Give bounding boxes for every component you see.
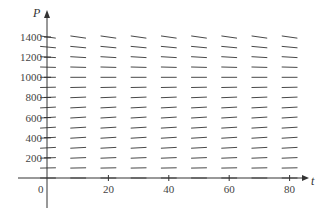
slope-segment: [192, 36, 207, 38]
y-axis-arrow-icon: [44, 10, 50, 18]
slope-segment: [131, 57, 146, 58]
slope-segment: [131, 158, 146, 159]
slope-segment: [41, 147, 56, 148]
slope-segment: [101, 57, 116, 58]
slope-segments: [41, 36, 298, 178]
y-tick-label: 800: [26, 91, 43, 103]
slope-segment: [192, 107, 207, 108]
slope-segment: [222, 137, 237, 138]
slope-segment: [71, 46, 86, 47]
origin-label: 0: [38, 183, 44, 195]
y-tick-label: 1400: [20, 31, 43, 43]
slope-segment: [71, 127, 86, 128]
slope-segment: [161, 147, 176, 148]
slope-segment: [71, 117, 86, 118]
slope-segment: [131, 46, 146, 47]
slope-segment: [282, 158, 297, 159]
x-axis-arrow-icon: [302, 175, 309, 181]
slope-segment: [101, 127, 116, 128]
slope-segment: [192, 97, 207, 98]
x-axis-label: t: [311, 174, 315, 188]
slope-segment: [71, 36, 86, 38]
slope-segment: [252, 158, 267, 159]
y-tick-label: 1200: [20, 51, 43, 63]
slope-segment: [222, 117, 237, 118]
slope-segment: [222, 127, 237, 128]
x-tick-label: 40: [163, 183, 175, 195]
slope-segment: [41, 46, 56, 47]
x-tick-label: 20: [103, 183, 115, 195]
slope-segment: [161, 137, 176, 138]
y-tick-label: 200: [26, 152, 43, 164]
slope-segment: [41, 127, 56, 128]
slope-segment: [131, 107, 146, 108]
slope-segment: [161, 97, 176, 98]
slope-segment: [192, 127, 207, 128]
slope-segment: [252, 137, 267, 138]
slope-segment: [131, 127, 146, 128]
slope-segment: [192, 117, 207, 118]
slope-segment: [101, 158, 116, 159]
slope-segment: [101, 36, 116, 38]
slope-segment: [252, 117, 267, 118]
slope-segment: [131, 36, 146, 38]
y-tick-label: 600: [26, 112, 43, 124]
y-axis-label: P: [32, 6, 41, 20]
slope-segment: [71, 97, 86, 98]
slope-segment: [282, 117, 297, 118]
slope-segment: [222, 36, 237, 38]
slope-segment: [222, 57, 237, 58]
slope-segment: [192, 158, 207, 159]
slope-segment: [222, 147, 237, 148]
slope-segment: [161, 46, 176, 47]
slope-segment: [282, 147, 297, 148]
slope-segment: [282, 107, 297, 108]
slope-segment: [161, 36, 176, 38]
slope-segment: [282, 36, 297, 38]
slope-segment: [161, 158, 176, 159]
x-tick-label: 60: [224, 183, 236, 195]
slope-segment: [282, 97, 297, 98]
x-tick-label: 80: [284, 183, 296, 195]
slope-segment: [131, 147, 146, 148]
slope-segment: [282, 127, 297, 128]
slope-segment: [222, 107, 237, 108]
slope-segment: [71, 158, 86, 159]
axes: [18, 10, 309, 208]
slope-segment: [222, 97, 237, 98]
slope-segment: [282, 46, 297, 47]
slope-segment: [71, 137, 86, 138]
slope-segment: [192, 57, 207, 58]
slope-segment: [282, 137, 297, 138]
slope-segment: [131, 117, 146, 118]
slope-segment: [192, 46, 207, 47]
slope-segment: [71, 107, 86, 108]
slope-segment: [161, 127, 176, 128]
slope-field-chart: 20406080 200400600800100012001400 0 t P: [0, 0, 321, 214]
slope-segment: [71, 147, 86, 148]
slope-segment: [252, 127, 267, 128]
slope-segment: [101, 107, 116, 108]
slope-segment: [161, 57, 176, 58]
slope-segment: [101, 97, 116, 98]
slope-segment: [41, 107, 56, 108]
slope-segment: [222, 158, 237, 159]
slope-segment: [101, 137, 116, 138]
slope-segment: [131, 137, 146, 138]
slope-segment: [222, 46, 237, 47]
slope-segment: [71, 57, 86, 58]
slope-segment: [252, 46, 267, 47]
y-tick-label: 400: [26, 132, 43, 144]
slope-segment: [252, 57, 267, 58]
slope-segment: [252, 36, 267, 38]
slope-segment: [101, 147, 116, 148]
slope-segment: [101, 117, 116, 118]
slope-segment: [192, 137, 207, 138]
y-ticks: 200400600800100012001400: [20, 31, 51, 164]
slope-segment: [252, 107, 267, 108]
slope-segment: [161, 107, 176, 108]
slope-segment: [161, 117, 176, 118]
slope-segment: [131, 97, 146, 98]
slope-segment: [252, 147, 267, 148]
slope-segment: [192, 147, 207, 148]
